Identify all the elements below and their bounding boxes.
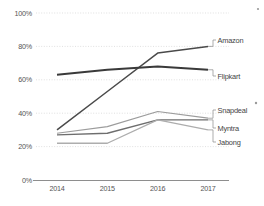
- leader-line-myntra: [208, 120, 216, 128]
- y-axis-tick-label: 80%: [18, 42, 33, 51]
- series-labels: AmazonFlipkartSnapdealMyntraJabong: [218, 36, 248, 147]
- y-axis-tick-label: 40%: [18, 109, 33, 118]
- x-axis-tick-label: 2015: [100, 184, 115, 193]
- series-line-jabong: [57, 120, 208, 143]
- series-label-flipkart: Flipkart: [218, 72, 241, 81]
- speck-top-right-icon: [257, 8, 259, 10]
- y-axis-tick-label: 20%: [18, 142, 33, 151]
- series-label-jabong: Jabong: [218, 138, 241, 147]
- y-axis-tick-label: 60%: [18, 75, 33, 84]
- data-series-lines: [57, 46, 208, 143]
- y-axis-tick-labels: 0%20%40%60%80%100%: [14, 9, 32, 185]
- chart-canvas: 0%20%40%60%80%100% 2014201520162017 Amaz…: [0, 0, 264, 206]
- leader-line-flipkart: [208, 70, 216, 76]
- leader-line-jabong: [208, 130, 216, 142]
- series-label-myntra: Myntra: [218, 124, 240, 133]
- series-label-leader-lines: [208, 40, 216, 142]
- x-axis-tick-label: 2016: [150, 184, 165, 193]
- series-line-snapdeal: [57, 112, 208, 134]
- y-axis-tick-label: 0%: [22, 176, 33, 185]
- series-line-amazon: [57, 46, 208, 129]
- series-line-flipkart: [57, 66, 208, 74]
- x-axis-tick-labels: 2014201520162017: [49, 184, 215, 193]
- y-axis-tick-label: 100%: [14, 9, 32, 18]
- line-chart: 0%20%40%60%80%100% 2014201520162017 Amaz…: [0, 0, 264, 206]
- x-axis-tick-label: 2017: [200, 184, 215, 193]
- leader-line-amazon: [208, 40, 216, 46]
- series-line-myntra: [57, 120, 208, 135]
- x-axis-tick-label: 2014: [49, 184, 64, 193]
- leader-line-snapdeal: [208, 110, 216, 118]
- series-label-snapdeal: Snapdeal: [218, 106, 248, 115]
- speck-mid-right-icon: [255, 102, 257, 104]
- series-label-amazon: Amazon: [218, 36, 244, 45]
